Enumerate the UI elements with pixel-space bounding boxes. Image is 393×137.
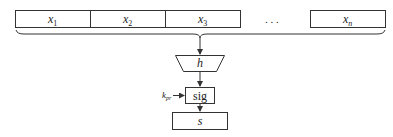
brace — [16, 30, 385, 38]
sig-label: sig — [193, 89, 207, 103]
input-blocks: x1 x2 x3 . . . xn — [16, 11, 386, 29]
label-xn: xn — [342, 12, 352, 28]
label-x3: x3 — [197, 12, 207, 28]
ellipsis: . . . — [265, 13, 279, 25]
private-key-label: kpr — [162, 90, 172, 101]
label-x2: x2 — [122, 12, 132, 28]
signature-label: s — [198, 114, 203, 128]
label-x1: x1 — [47, 12, 57, 28]
hash-label: h — [197, 56, 203, 70]
hash-then-sign-diagram: x1 x2 x3 . . . xn h sig kpr s — [0, 0, 393, 137]
